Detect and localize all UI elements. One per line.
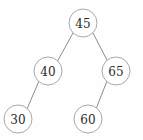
node-label: 60 [80, 113, 95, 127]
tree-canvas: 4540653060 [0, 0, 143, 140]
tree-node: 40 [34, 57, 62, 85]
node-label: 65 [108, 65, 123, 79]
node-label: 40 [40, 65, 55, 79]
tree-edge [96, 81, 107, 109]
tree-node: 30 [4, 105, 32, 133]
tree-edge [27, 81, 39, 109]
tree-node: 65 [102, 57, 130, 85]
binary-tree-diagram: 4540653060 [0, 0, 143, 140]
tree-edge [93, 33, 108, 62]
tree-node: 60 [74, 105, 102, 133]
node-label: 45 [75, 17, 90, 31]
tree-edge [57, 33, 73, 62]
node-layer: 4540653060 [4, 9, 130, 133]
tree-node: 45 [69, 9, 97, 37]
node-label: 30 [10, 113, 25, 127]
